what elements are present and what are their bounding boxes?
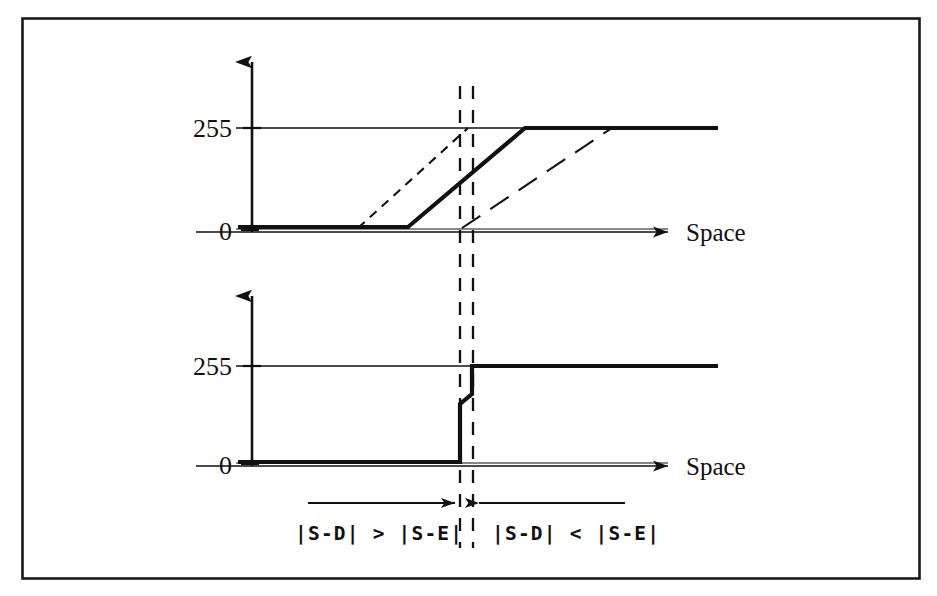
figure-border [23,19,920,579]
top-ytick-label-0: 0 [219,217,232,246]
top-x-axis-label: Space [686,219,746,246]
top-ytick-label-255: 255 [193,114,232,143]
left-region-label: |S-D| > |S-E| [295,522,463,545]
bottom-ytick-label-0: 0 [219,451,232,480]
bottom-x-axis-label: Space [686,453,746,480]
edge-profile-figure: 255 0 Space 255 0 Space |S-D| > |S- [0,0,937,596]
figure-root: 255 0 Space 255 0 Space |S-D| > |S- [0,0,937,596]
right-region-label: |S-D| < |S-E| [492,522,660,545]
bottom-ytick-label-255: 255 [193,352,232,381]
